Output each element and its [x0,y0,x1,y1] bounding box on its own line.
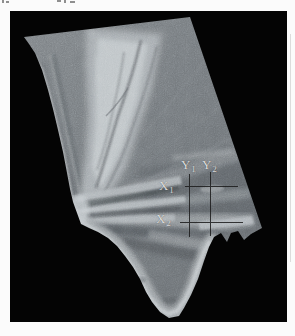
label-y1-sub: 1 [191,164,196,174]
label-y1: Y1 [181,158,196,173]
scanned-figure-page: Y1 Y2 X1 X2 [0,0,295,336]
label-x2-sub: 2 [166,218,171,228]
label-y2-sub: 2 [212,164,217,174]
label-x1-sub: 1 [169,185,174,195]
label-x2-base: X [156,211,166,226]
cropped-text-artifact [2,0,75,3]
label-x1-base: X [159,178,169,193]
label-x1: X1 [159,179,174,194]
sar-image-figure [0,0,295,336]
label-x2: X2 [156,212,171,227]
label-y1-base: Y [181,157,191,172]
label-y2: Y2 [202,158,217,173]
label-y2-base: Y [202,157,212,172]
page-edge-line [290,34,291,262]
